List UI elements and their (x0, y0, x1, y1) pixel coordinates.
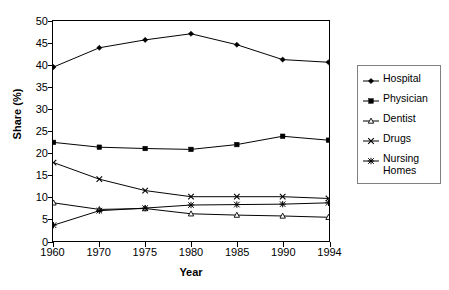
y-axis-tick-mark (48, 219, 53, 220)
chart-plot-svg (53, 21, 329, 241)
data-point-marker (326, 60, 329, 65)
legend-marker-icon (362, 113, 380, 125)
legend-item-physician[interactable]: Physician (362, 92, 436, 105)
series-drugs (53, 160, 329, 201)
legend-item-drugs[interactable]: Drugs (362, 132, 436, 145)
x-axis-tick-labels: 1960197019751980198519901994 (52, 247, 330, 263)
x-axis-tick-label: 1980 (179, 247, 203, 258)
x-axis-tick-label: 1985 (225, 247, 249, 258)
series-hospital (53, 31, 329, 69)
legend-item-label: Nursing Homes (383, 152, 419, 176)
data-point-marker (97, 45, 102, 50)
legend-item-dentist[interactable]: Dentist (362, 112, 436, 125)
legend-item-label: Drugs (383, 132, 411, 144)
y-axis-tick-mark (48, 197, 53, 198)
data-point-marker (235, 142, 240, 147)
legend-item-label: Dentist (383, 112, 416, 124)
legend-marker-icon (362, 73, 380, 85)
data-point-marker (326, 138, 329, 143)
data-point-marker (234, 201, 240, 207)
series-line (53, 34, 328, 67)
data-point-marker (96, 208, 102, 214)
x-axis-tick-label: 1975 (133, 247, 157, 258)
data-point-marker (53, 222, 57, 228)
legend-item-label: Hospital (383, 72, 421, 84)
data-point-marker (53, 200, 56, 205)
x-axis-tick-mark (191, 242, 192, 247)
y-axis-tick-label: 5 (18, 214, 48, 225)
data-point-marker (142, 205, 148, 211)
y-axis-tick-mark (48, 21, 53, 22)
x-axis-tick-label: 1970 (86, 247, 110, 258)
x-axis-tick-mark (145, 242, 146, 247)
y-axis-title: Share (%) (11, 69, 23, 159)
x-axis-tick-mark (237, 242, 238, 247)
series-line (53, 163, 328, 199)
data-point-marker (369, 99, 374, 104)
y-axis-tick-label: 10 (18, 192, 48, 203)
data-point-marker (143, 146, 148, 151)
y-axis-tick-mark (48, 153, 53, 154)
x-axis-tick-mark (330, 242, 331, 247)
legend-marker-icon (362, 93, 380, 105)
data-point-marker (143, 37, 148, 42)
legend-item-hospital[interactable]: Hospital (362, 72, 436, 85)
data-point-marker (280, 57, 285, 62)
data-point-marker (368, 158, 374, 164)
data-point-marker (188, 202, 194, 208)
y-axis-tick-mark (48, 65, 53, 66)
chart-legend: HospitalPhysicianDentistDrugsNursing Hom… (357, 65, 441, 184)
y-axis-tick-label: 50 (18, 15, 48, 26)
x-axis-tick-mark (53, 242, 54, 247)
data-point-marker (188, 31, 193, 36)
y-axis-tick-mark (48, 87, 53, 88)
y-axis-tick-label: 45 (18, 37, 48, 48)
y-axis-tick-label: 15 (18, 170, 48, 181)
data-point-marker (280, 134, 285, 139)
data-point-marker (325, 200, 329, 206)
data-point-marker (234, 42, 239, 47)
legend-marker-icon (362, 133, 380, 145)
legend-marker-icon (362, 153, 380, 165)
chart-figure: 05101520253035404550 Share (%) 196019701… (0, 0, 449, 290)
y-axis-tick-mark (48, 131, 53, 132)
x-axis-title: Year (52, 266, 330, 278)
data-point-marker (97, 145, 102, 150)
data-point-marker (53, 64, 56, 69)
y-axis-tick-mark (48, 43, 53, 44)
x-axis-tick-mark (283, 242, 284, 247)
series-physician (53, 134, 329, 152)
plot-area (52, 20, 330, 242)
data-point-marker (368, 78, 373, 83)
data-point-marker (53, 140, 56, 145)
data-point-marker (189, 147, 194, 152)
data-point-marker (279, 201, 285, 207)
x-axis-tick-label: 1960 (40, 247, 64, 258)
legend-item-nursing-homes[interactable]: Nursing Homes (362, 152, 436, 176)
x-axis-tick-label: 1994 (317, 247, 341, 258)
y-axis-tick-mark (48, 109, 53, 110)
x-axis-tick-mark (99, 242, 100, 247)
y-axis-tick-mark (48, 175, 53, 176)
x-axis-tick-label: 1990 (271, 247, 295, 258)
legend-item-label: Physician (383, 92, 428, 104)
